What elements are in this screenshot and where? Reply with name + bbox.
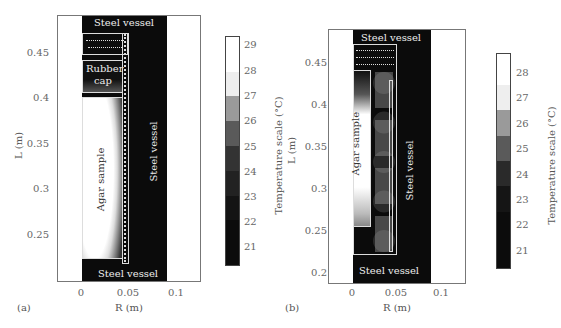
colorbar-tick: 24 bbox=[244, 167, 257, 177]
colorbar-tick: 25 bbox=[516, 144, 529, 154]
colorbar-tick: 27 bbox=[244, 91, 257, 101]
colorbar-tick: 23 bbox=[244, 192, 257, 202]
y-tick: 0.4 bbox=[293, 100, 327, 110]
colorbar-tick: 26 bbox=[244, 116, 257, 126]
colorbar bbox=[496, 53, 511, 269]
y-tick: 0.3 bbox=[15, 184, 49, 194]
colorbar-label: Temperature scale (°C) bbox=[273, 96, 284, 216]
label-cap: cap bbox=[94, 75, 112, 86]
colorbar-label: Temperature scale (°C) bbox=[546, 106, 557, 226]
x-tick: 0 bbox=[78, 288, 84, 298]
colorbar-tick: 22 bbox=[516, 220, 529, 230]
x-tick: 0.05 bbox=[385, 288, 407, 298]
y-tick: 0.25 bbox=[293, 226, 327, 236]
y-axis-label: L (m) bbox=[286, 131, 297, 171]
y-axis-label: L (m) bbox=[13, 126, 24, 166]
x-axis-label: R (m) bbox=[383, 302, 411, 313]
label-rubber-cap: Rubber cap bbox=[86, 63, 120, 87]
colorbar-tick: 23 bbox=[516, 195, 529, 205]
colorbar-tick: 26 bbox=[516, 119, 529, 129]
colorbar-tick: 21 bbox=[516, 246, 529, 256]
colorbar-tick: 28 bbox=[244, 66, 257, 76]
x-tick: 0 bbox=[349, 288, 355, 298]
colorbar-tick: 25 bbox=[244, 142, 257, 152]
flow-line bbox=[88, 47, 122, 49]
label-agar-sample: Agar sample bbox=[350, 116, 361, 176]
flow-line bbox=[356, 64, 394, 66]
colorbar-tick: 28 bbox=[516, 68, 529, 78]
x-tick: 0.1 bbox=[433, 288, 449, 298]
colorbar-tick: 24 bbox=[516, 170, 529, 180]
label-steel-vessel-top: Steel vessel bbox=[94, 17, 154, 28]
colorbar-tick: 22 bbox=[244, 217, 257, 227]
label-steel-vessel-top: Steel vessel bbox=[361, 32, 421, 43]
colorbar-tick: 29 bbox=[244, 40, 257, 50]
y-tick: 0.2 bbox=[293, 268, 327, 278]
y-tick: 0.45 bbox=[293, 58, 327, 68]
y-tick: 0.4 bbox=[15, 93, 49, 103]
colorbar-tick: 27 bbox=[516, 93, 529, 103]
y-tick: 0.25 bbox=[15, 230, 49, 240]
air-gap-outline bbox=[122, 33, 129, 264]
label-rubber: Rubber bbox=[86, 63, 123, 74]
panel-tag: (a) bbox=[17, 302, 31, 313]
plot-area: Steel vessel Agar sample Steel vessel St… bbox=[328, 29, 466, 284]
y-tick: 0.35 bbox=[293, 142, 327, 152]
flow-line bbox=[86, 40, 124, 42]
colorbar-tick: 21 bbox=[244, 242, 257, 252]
x-axis-label: R (m) bbox=[115, 302, 143, 313]
x-tick: 0.1 bbox=[168, 288, 184, 298]
label-steel-vessel-bottom: Steel vessel bbox=[359, 265, 419, 276]
plot-area: Steel vessel Rubber cap Agar sample Stee… bbox=[57, 15, 201, 282]
flow-line bbox=[356, 50, 394, 52]
label-agar-sample: Agar sample bbox=[95, 145, 106, 215]
y-tick: 0.45 bbox=[15, 48, 49, 58]
flow-line bbox=[356, 57, 394, 59]
y-tick: 0.3 bbox=[293, 184, 327, 194]
colorbar bbox=[225, 36, 240, 266]
x-tick: 0.05 bbox=[117, 288, 139, 298]
label-steel-vessel-side: Steel vessel bbox=[404, 136, 415, 206]
label-steel-vessel-side: Steel vessel bbox=[148, 117, 159, 187]
inner-wall bbox=[389, 80, 393, 252]
panel-tag: (b) bbox=[285, 302, 299, 313]
label-steel-vessel-bottom: Steel vessel bbox=[98, 268, 158, 279]
